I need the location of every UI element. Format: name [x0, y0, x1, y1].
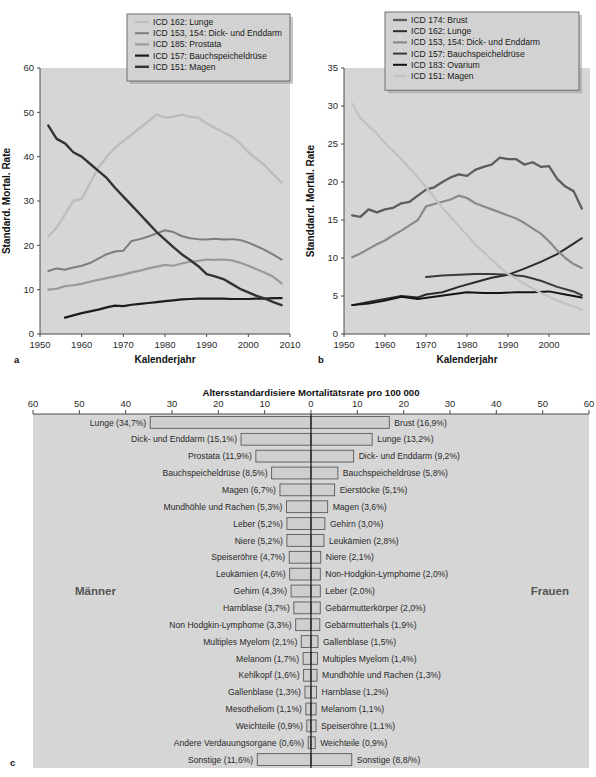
bar-right-15[interactable] — [311, 669, 317, 681]
y-tick-label: 0 — [29, 328, 34, 339]
bar-left-20[interactable] — [257, 754, 311, 766]
y-tick-label: 10 — [327, 252, 338, 263]
bar-left-13[interactable] — [301, 636, 311, 648]
bar-label-right-5: Magen (3,6%) — [333, 502, 387, 512]
legend-label: ICD 174: Brust — [411, 15, 468, 25]
bar-right-17[interactable] — [311, 703, 316, 715]
bar-right-14[interactable] — [311, 653, 317, 665]
bar-right-3[interactable] — [311, 467, 338, 479]
x-tick-label: 1950 — [333, 339, 354, 350]
bar-right-2[interactable] — [311, 450, 354, 462]
bar-label-left-17: Mesotheliom (1,1%) — [225, 704, 302, 714]
legend-label: ICD 162: Lunge — [411, 26, 471, 36]
legend-label: ICD 157: Bauchspeicheldrüse — [411, 49, 525, 59]
y-tick-label: 40 — [23, 151, 34, 162]
bar-label-right-15: Mundhöhle und Rachen (1,3%) — [322, 670, 441, 680]
bar-label-right-2: Dick- und Enddarm (9,2%) — [359, 451, 460, 461]
y-tick-label: 20 — [327, 176, 338, 187]
y-tick-label: 10 — [23, 284, 34, 295]
bar-left-8[interactable] — [289, 551, 311, 563]
bar-label-right-10: Leber (2,0%) — [325, 586, 375, 596]
legend-label: ICD 162: Lunge — [153, 17, 213, 27]
bar-label-right-17: Melanom (1,1%) — [321, 704, 384, 714]
bar-left-15[interactable] — [304, 669, 311, 681]
bar-left-11[interactable] — [294, 602, 311, 614]
x-tick-label: 1950 — [29, 339, 50, 350]
bar-right-13[interactable] — [311, 636, 318, 648]
bar-right-11[interactable] — [311, 602, 320, 614]
x-tick-label-right: 20 — [398, 398, 409, 409]
bar-left-6[interactable] — [287, 518, 311, 530]
bar-right-9[interactable] — [311, 568, 320, 580]
x-axis-label: Kalenderjahr — [134, 354, 195, 365]
bar-left-17[interactable] — [306, 703, 311, 715]
y-tick-label: 25 — [327, 138, 338, 149]
bar-label-left-11: Harnblase (3,7%) — [223, 603, 290, 613]
bar-left-4[interactable] — [280, 484, 311, 496]
x-tick-label: 1960 — [71, 339, 92, 350]
bar-right-0[interactable] — [311, 417, 389, 429]
panel-c: Altersstandardisiere Mortalitätsrate pro… — [10, 387, 594, 768]
bar-left-9[interactable] — [290, 568, 311, 580]
bar-right-18[interactable] — [311, 720, 316, 732]
bar-left-3[interactable] — [272, 467, 311, 479]
x-tick-label-right: 60 — [584, 398, 595, 409]
x-tick-label-left: 50 — [74, 398, 85, 409]
x-tick-label: 1970 — [113, 339, 134, 350]
legend-label: ICD 183: Ovarium — [411, 60, 480, 70]
bar-left-10[interactable] — [291, 585, 311, 597]
bar-label-right-8: Niere (2,1%) — [326, 552, 374, 562]
bar-left-12[interactable] — [296, 619, 311, 631]
bar-right-4[interactable] — [311, 484, 335, 496]
bar-right-6[interactable] — [311, 518, 325, 530]
bar-label-left-6: Leber (5,2%) — [233, 519, 283, 529]
bar-label-right-11: Gebärmutterkörper (2,0%) — [325, 603, 425, 613]
x-tick-label-right: 50 — [537, 398, 548, 409]
x-tick-label: 2000 — [538, 339, 559, 350]
bar-right-5[interactable] — [311, 501, 328, 513]
x-tick-label: 1980 — [154, 339, 175, 350]
bar-label-right-3: Bauchspeicheldrüse (5,8%) — [343, 468, 448, 478]
bar-left-5[interactable] — [286, 501, 311, 513]
x-tick-label-right: 40 — [491, 398, 502, 409]
bar-left-0[interactable] — [150, 417, 311, 429]
bar-right-7[interactable] — [311, 535, 324, 547]
bar-left-1[interactable] — [241, 433, 311, 445]
bar-label-left-0: Lunge (34,7%) — [90, 418, 147, 428]
plot-area-b — [344, 68, 590, 334]
bar-right-8[interactable] — [311, 551, 321, 563]
x-axis-label: Kalenderjahr — [436, 354, 497, 365]
y-tick-label: 60 — [23, 62, 34, 73]
y-tick-label: 5 — [333, 290, 338, 301]
bar-label-right-1: Lunge (13,2%) — [377, 434, 434, 444]
panel-a: 0102030405060195019601970198019902000201… — [1, 14, 301, 365]
bar-label-left-19: Andere Verdauungsorgane (0,6%) — [174, 738, 305, 748]
y-axis-label: Standdard. Mortal. Rate — [305, 144, 316, 257]
bar-left-2[interactable] — [256, 450, 311, 462]
bar-left-16[interactable] — [305, 686, 311, 698]
bar-right-20[interactable] — [311, 754, 352, 766]
bar-left-14[interactable] — [303, 653, 311, 665]
bar-label-left-5: Mundhöhle und Rachen (5,3%) — [163, 502, 282, 512]
y-tick-label: 35 — [327, 62, 338, 73]
bar-right-1[interactable] — [311, 433, 372, 445]
bar-left-7[interactable] — [287, 535, 311, 547]
bar-label-left-7: Niere (5,2%) — [235, 536, 283, 546]
y-tick-label: 30 — [23, 195, 34, 206]
bar-label-left-12: Non Hodgkin-Lymphome (3,3%) — [169, 620, 292, 630]
bar-right-12[interactable] — [311, 619, 320, 631]
bar-label-right-16: Harnblase (1,2%) — [322, 687, 389, 697]
panel-letter-a: a — [14, 354, 20, 365]
bar-right-16[interactable] — [311, 686, 317, 698]
bar-label-right-14: Multiples Myelom (1,4%) — [322, 654, 416, 664]
bar-label-left-15: Kehlkopf (1,6%) — [238, 670, 299, 680]
x-tick-label-left: 20 — [213, 398, 224, 409]
bar-label-right-6: Gehirn (3,0%) — [330, 519, 384, 529]
bar-label-right-19: Weichteile (0,9%) — [320, 738, 387, 748]
bar-right-10[interactable] — [311, 585, 320, 597]
bar-label-left-9: Leukämien (4,6%) — [216, 569, 286, 579]
bar-label-left-14: Melanom (1,7%) — [236, 654, 299, 664]
bar-label-right-4: Eierstöcke (5,1%) — [340, 485, 408, 495]
bar-label-left-20: Sonstige (11,6%) — [188, 755, 253, 765]
legend-label: ICD 153, 154: Dick- und Enddarm — [153, 28, 282, 38]
